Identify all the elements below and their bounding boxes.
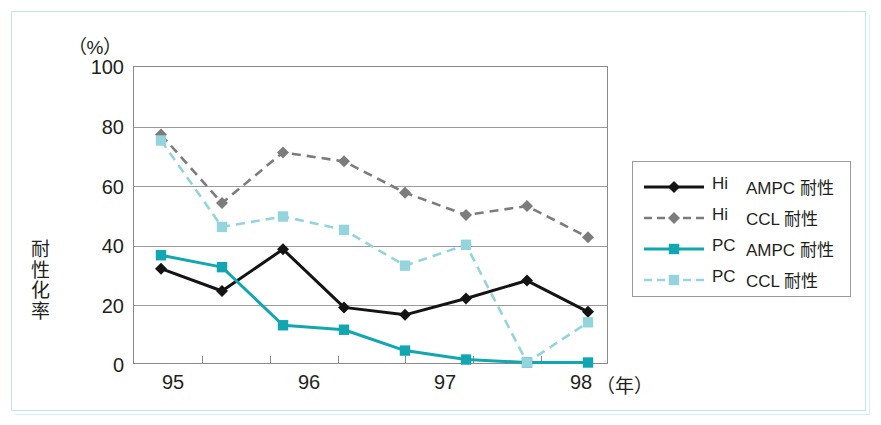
legend-label-hi-ampc: Hi AMPC 耐性: [712, 174, 834, 199]
data-point: [156, 250, 166, 260]
legend-code: PC: [712, 236, 746, 261]
y-axis-title-char: 性: [28, 261, 52, 282]
legend-swatch-hi-ampc: [643, 178, 705, 196]
legend-label-pc-ampc: PC AMPC 耐性: [712, 236, 834, 261]
legend-code: Hi: [712, 205, 746, 230]
y-tick-label: 40: [66, 236, 124, 256]
data-point: [522, 357, 532, 367]
y-tick-label: 80: [66, 117, 124, 137]
legend-marker: [669, 243, 679, 253]
data-point: [399, 187, 411, 199]
data-point: [217, 222, 227, 232]
legend-swatch-hi-ccl: [643, 209, 705, 227]
data-point: [278, 320, 288, 330]
legend-item-hi-ccl[interactable]: Hi CCL 耐性: [633, 202, 850, 233]
data-point: [399, 309, 411, 321]
legend-label-pc-ccl: PC CCL 耐性: [712, 267, 818, 292]
y-axis-title-char: 率: [28, 302, 52, 323]
data-point: [155, 263, 167, 275]
legend-item-pc-ampc[interactable]: PC AMPC 耐性: [633, 233, 850, 264]
series-pc-ccl: [156, 135, 593, 367]
legend-marker: [668, 181, 680, 193]
legend-code: PC: [712, 267, 746, 292]
y-axis-title-char: 耐: [28, 240, 52, 261]
legend-desc: CCL 耐性: [746, 205, 818, 230]
data-point: [400, 260, 410, 270]
data-point: [583, 317, 593, 327]
chart-legend: Hi AMPC 耐性 Hi CCL 耐性 PC AMPC 耐性 PC CCL 耐…: [632, 161, 851, 297]
legend-desc: CCL 耐性: [746, 267, 818, 292]
legend-marker: [669, 274, 679, 284]
legend-marker: [668, 212, 680, 224]
legend-desc: AMPC 耐性: [746, 174, 834, 199]
y-axis-title-char: 化: [28, 281, 52, 302]
legend-swatch-pc-ccl: [643, 271, 705, 289]
legend-code: Hi: [712, 174, 746, 199]
data-point: [338, 155, 350, 167]
data-point: [339, 225, 349, 235]
y-tick-label: 0: [66, 355, 124, 375]
data-point: [583, 357, 593, 367]
data-point: [521, 200, 533, 212]
series-pc-ampc: [156, 250, 593, 368]
y-tick-labels: 100 80 60 40 20 0: [62, 0, 124, 425]
x-tick-label: 96: [281, 371, 337, 394]
data-point: [582, 306, 594, 318]
series-layer: [133, 66, 608, 364]
x-tick-label: 95: [145, 371, 201, 394]
data-point: [521, 275, 533, 287]
data-point: [339, 325, 349, 335]
x-axis-unit: （年）: [596, 371, 653, 398]
data-point: [460, 292, 472, 304]
data-point: [460, 209, 472, 221]
y-tick-label: 100: [66, 57, 124, 77]
legend-label-hi-ccl: Hi CCL 耐性: [712, 205, 818, 230]
series-hi-ampc: [155, 243, 594, 321]
legend-item-pc-ccl[interactable]: PC CCL 耐性: [633, 264, 850, 295]
x-tick-label: 97: [417, 371, 473, 394]
y-tick-label: 60: [66, 177, 124, 197]
data-point: [582, 231, 594, 243]
data-point: [278, 211, 288, 221]
data-point: [156, 135, 166, 145]
y-axis-title: 耐 性 化 率: [28, 240, 52, 322]
legend-swatch-pc-ampc: [643, 240, 705, 258]
legend-desc: AMPC 耐性: [746, 236, 834, 261]
series-line: [161, 141, 588, 363]
data-point: [461, 354, 471, 364]
y-tick-label: 20: [66, 296, 124, 316]
data-point: [400, 345, 410, 355]
legend-item-hi-ampc[interactable]: Hi AMPC 耐性: [633, 171, 850, 202]
data-point: [461, 240, 471, 250]
chart-figure: （%） 耐 性 化 率 100 80 60 40 20 0 95 96 97 9…: [0, 0, 881, 425]
data-point: [217, 262, 227, 272]
